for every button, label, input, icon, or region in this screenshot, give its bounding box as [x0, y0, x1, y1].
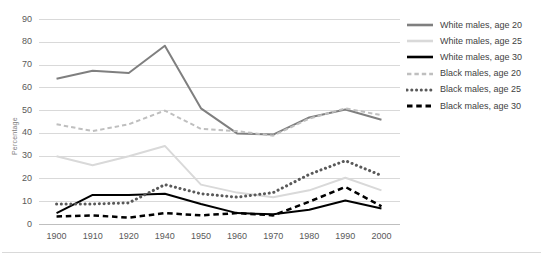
- legend-label: White males, age 25: [440, 37, 522, 46]
- legend-item[interactable]: Black males, age 25: [406, 82, 541, 98]
- x-tick-label: 1960: [217, 231, 257, 241]
- legend-swatch-icon: [406, 34, 434, 48]
- legend-swatch-icon: [406, 67, 434, 81]
- x-tick-label: 1920: [109, 231, 149, 241]
- y-tick-label: 20: [10, 173, 32, 183]
- legend-item[interactable]: White males, age 20: [406, 17, 541, 33]
- x-tick-label: 1970: [253, 231, 293, 241]
- legend-label: White males, age 20: [440, 21, 522, 30]
- legend-item[interactable]: Black males, age 30: [406, 98, 541, 114]
- line-chart: Percentage 0102030405060708090 190019101…: [0, 0, 543, 259]
- series-line: [57, 187, 382, 218]
- legend-label: White males, age 30: [440, 53, 522, 62]
- x-tick-label: 2000: [361, 231, 401, 241]
- legend-item[interactable]: White males, age 30: [406, 49, 541, 65]
- series-line: [57, 46, 382, 135]
- bottom-divider: [2, 252, 541, 253]
- y-tick-label: 10: [10, 196, 32, 206]
- x-tick-label: 1900: [37, 231, 77, 241]
- y-tick-label: 50: [10, 105, 32, 115]
- legend-swatch-icon: [406, 50, 434, 64]
- legend-label: Black males, age 25: [440, 85, 521, 94]
- y-tick-label: 80: [10, 36, 32, 46]
- legend-item[interactable]: White males, age 25: [406, 33, 541, 49]
- y-tick-label: 40: [10, 127, 32, 137]
- y-tick-label: 90: [10, 14, 32, 24]
- x-tick-label: 1950: [181, 231, 221, 241]
- x-tick-label: 1940: [145, 231, 185, 241]
- legend-swatch-icon: [406, 83, 434, 97]
- y-tick-label: 0: [10, 219, 32, 229]
- legend-swatch-icon: [406, 99, 434, 113]
- legend-label: Black males, age 30: [440, 102, 521, 111]
- y-tick-label: 30: [10, 150, 32, 160]
- x-tick-label: 1980: [289, 231, 329, 241]
- legend-item[interactable]: Black males, age 20: [406, 66, 541, 82]
- y-tick-label: 70: [10, 59, 32, 69]
- chart-legend: White males, age 20White males, age 25Wh…: [406, 17, 541, 114]
- y-tick-label: 60: [10, 82, 32, 92]
- series-line: [57, 146, 382, 197]
- x-tick-label: 1990: [325, 231, 365, 241]
- x-tick-label: 1910: [73, 231, 113, 241]
- legend-swatch-icon: [406, 18, 434, 32]
- legend-label: Black males, age 20: [440, 69, 521, 78]
